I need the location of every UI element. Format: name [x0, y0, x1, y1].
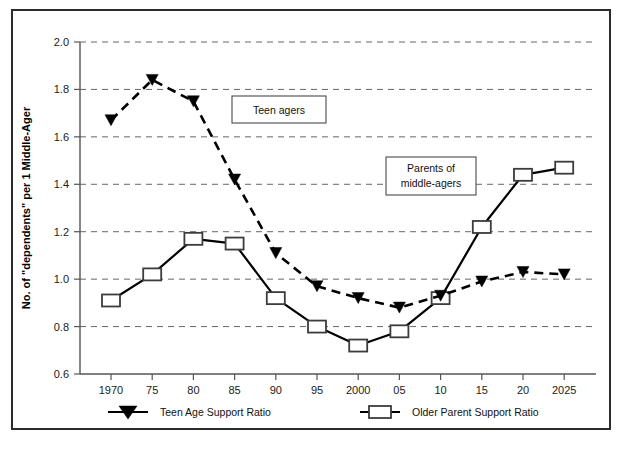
x-tick-label-2025: 2025 [552, 384, 576, 396]
series-line-teen-age-support-ratio [111, 80, 564, 308]
y-tick-label-0.8: 0.8 [54, 321, 69, 333]
series-markers-teen-age-support-ratio [105, 74, 570, 313]
data-point-square [184, 233, 202, 245]
series-line-older-parent-support-ratio [111, 168, 564, 346]
data-point-square [226, 238, 244, 250]
y-tick-label-0.6: 0.6 [54, 368, 69, 380]
y-tick-label-1.4: 1.4 [54, 178, 69, 190]
annotation-teen-agers: Teen agers [232, 96, 326, 123]
data-point-triangle [558, 269, 570, 280]
y-axis-title: No. of "dependents" per 1 Middle-Ager [20, 106, 32, 309]
data-point-triangle [476, 276, 488, 287]
x-tick-label-90: 90 [270, 384, 282, 396]
data-point-triangle [270, 248, 282, 259]
annotation-parents-label-line1: Parents of [407, 162, 455, 174]
y-tick-label-2: 2.0 [54, 36, 69, 48]
annotation-teen-agers-label: Teen agers [253, 104, 305, 116]
x-tick-label-05: 05 [393, 384, 405, 396]
data-point-square [555, 162, 573, 174]
y-tick-label-1: 1.0 [54, 273, 69, 285]
data-point-square [390, 325, 408, 337]
x-tick-label-15: 15 [476, 384, 488, 396]
annotation-parents-of-middle-agers: Parents of middle-agers [386, 157, 476, 195]
data-point-triangle [229, 174, 241, 185]
open-square-icon [369, 406, 391, 418]
x-tick-label-1970: 1970 [99, 384, 123, 396]
data-point-square [349, 340, 367, 352]
data-point-triangle [187, 96, 199, 107]
y-tick-label-1.6: 1.6 [54, 131, 69, 143]
x-tick-label-20: 20 [517, 384, 529, 396]
x-tick-label-10: 10 [434, 384, 446, 396]
chart-canvas: 0.60.81.01.21.41.61.82.0 197075808590952… [0, 0, 623, 451]
data-point-square [308, 321, 326, 333]
x-tick-label-95: 95 [311, 384, 323, 396]
chart-figure: 0.60.81.01.21.41.61.82.0 197075808590952… [0, 0, 623, 451]
legend-label-older-parent: Older Parent Support Ratio [412, 406, 539, 418]
y-tick-label-1.8: 1.8 [54, 83, 69, 95]
data-point-square [514, 169, 532, 181]
x-tick-label-75: 75 [146, 384, 158, 396]
annotation-parents-label-line2: middle-agers [401, 177, 462, 189]
legend-item-older-parent-support-ratio[interactable]: Older Parent Support Ratio [360, 406, 539, 418]
x-tick-label-2000: 2000 [346, 384, 370, 396]
y-tick-label-1.2: 1.2 [54, 226, 69, 238]
x-tick-label-80: 80 [187, 384, 199, 396]
y-axis-ticks-group: 0.60.81.01.21.41.61.82.0 [54, 36, 80, 380]
data-point-square [143, 268, 161, 280]
x-tick-label-85: 85 [228, 384, 240, 396]
data-point-square [267, 292, 285, 304]
gridlines-group [80, 42, 596, 327]
legend: Teen Age Support Ratio Older Parent Supp… [108, 406, 539, 419]
data-point-triangle [105, 115, 117, 126]
x-axis-ticks-group: 197075808590952000051015202025 [99, 374, 577, 396]
legend-label-teen-age: Teen Age Support Ratio [160, 406, 271, 418]
data-point-square [102, 294, 120, 306]
data-point-square [473, 221, 491, 233]
legend-item-teen-age-support-ratio[interactable]: Teen Age Support Ratio [108, 406, 271, 419]
